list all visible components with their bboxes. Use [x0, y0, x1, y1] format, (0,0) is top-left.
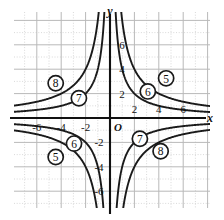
y-tick-2: 2	[119, 88, 125, 100]
curve-6	[114, 0, 222, 113]
x-tick-6: 6	[180, 103, 186, 115]
callout-label: 5	[163, 73, 169, 85]
x-axis-label: x	[206, 111, 213, 125]
x-tick--2: -2	[81, 121, 90, 133]
curve-5	[118, 0, 222, 107]
x-tick-4: 4	[156, 103, 162, 115]
callout-label: 8	[53, 77, 59, 89]
callout-8: 8	[153, 144, 168, 159]
x-tick--6: -6	[32, 121, 42, 133]
callout-label: 7	[137, 133, 143, 145]
callout-5: 5	[48, 149, 63, 164]
callout-5: 5	[159, 71, 174, 86]
callout-label: 6	[145, 86, 151, 98]
y-tick-4: 4	[119, 63, 125, 75]
origin-label: O	[114, 121, 122, 133]
coordinate-plane: 246-2-4-6246-2-4-6 x y O 87566578	[0, 0, 224, 220]
callout-7: 7	[132, 131, 147, 146]
callout-7: 7	[71, 91, 86, 106]
y-tick--4: -4	[94, 161, 104, 173]
y-tick--6: -6	[94, 185, 104, 197]
y-axis-label: y	[105, 4, 113, 18]
callout-label: 5	[53, 151, 59, 163]
callout-6: 6	[140, 84, 155, 99]
callout-6: 6	[66, 136, 81, 151]
x-tick-2: 2	[132, 103, 138, 115]
hyperbola-curves	[0, 0, 222, 220]
callout-label: 8	[158, 145, 164, 157]
graph-figure: 246-2-4-6246-2-4-6 x y O 87566578	[0, 0, 224, 220]
y-tick-6: 6	[119, 39, 125, 51]
x-tick--4: -4	[57, 121, 67, 133]
callout-8: 8	[48, 76, 63, 91]
callout-label: 7	[76, 92, 82, 104]
y-tick--2: -2	[94, 136, 103, 148]
callout-label: 6	[71, 138, 77, 150]
